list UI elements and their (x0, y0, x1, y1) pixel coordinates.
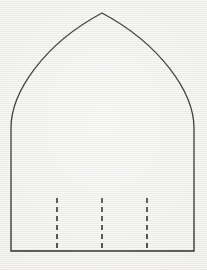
arch-figure (0, 0, 207, 270)
pointed-arch-outline-path (11, 13, 194, 251)
dashed-guide-group (57, 198, 147, 251)
drawing-canvas (0, 0, 207, 270)
